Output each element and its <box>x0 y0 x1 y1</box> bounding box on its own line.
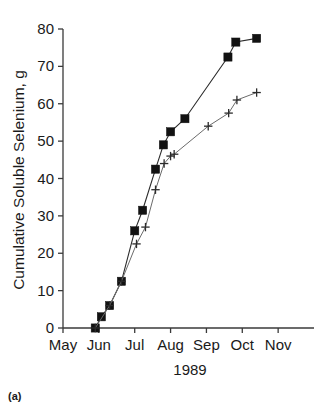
data-series-layer <box>91 34 261 332</box>
y-axis-ticks: 01020304050607080 <box>37 20 63 336</box>
y-tick-label: 10 <box>37 282 54 299</box>
x-tick-label: Jul <box>125 336 144 353</box>
y-tick-label: 30 <box>37 207 54 224</box>
cumulative-selenium-line-chart: Cumulative Soluble Selenium, g 010203040… <box>0 0 336 414</box>
data-point-plus <box>252 88 260 96</box>
data-point-square <box>232 38 240 46</box>
y-tick-label: 70 <box>37 57 54 74</box>
figure-caption: (a) <box>8 386 21 404</box>
data-point-square <box>139 206 147 214</box>
data-point-plus <box>151 186 159 194</box>
data-point-square <box>181 115 189 123</box>
y-axis-title: Cumulative Soluble Selenium, g <box>10 70 27 290</box>
y-tick-label: 40 <box>37 170 54 187</box>
x-axis-ticks: MayJunJulAugSepOctNov <box>49 328 292 353</box>
y-tick-label: 20 <box>37 244 54 261</box>
data-point-plus <box>224 109 232 117</box>
data-point-square <box>159 141 167 149</box>
data-point-square <box>224 53 232 61</box>
x-tick-label: Jun <box>87 336 111 353</box>
y-axis-title-text: Cumulative Soluble Selenium, g <box>10 70 27 290</box>
data-point-square <box>253 34 261 42</box>
y-tick-label: 50 <box>37 132 54 149</box>
x-tick-label: Nov <box>265 336 292 353</box>
figure-panel: Cumulative Soluble Selenium, g 010203040… <box>0 0 336 414</box>
y-tick-label: 0 <box>46 319 54 336</box>
data-point-plus <box>233 96 241 104</box>
x-tick-label: May <box>49 336 78 353</box>
x-tick-label: Sep <box>193 336 220 353</box>
data-point-square <box>131 227 139 235</box>
data-point-square <box>166 128 174 136</box>
y-tick-label: 80 <box>37 20 54 37</box>
figure-caption-text: (a) <box>8 390 21 402</box>
axes <box>63 29 314 328</box>
data-point-plus <box>141 223 149 231</box>
x-tick-label: Aug <box>157 336 184 353</box>
data-point-square <box>151 165 159 173</box>
series-line-plus-marker-series <box>95 93 256 328</box>
x-axis-title: 1989 <box>173 361 206 378</box>
x-tick-label: Oct <box>231 336 255 353</box>
y-tick-label: 60 <box>37 95 54 112</box>
data-point-plus <box>132 240 140 248</box>
